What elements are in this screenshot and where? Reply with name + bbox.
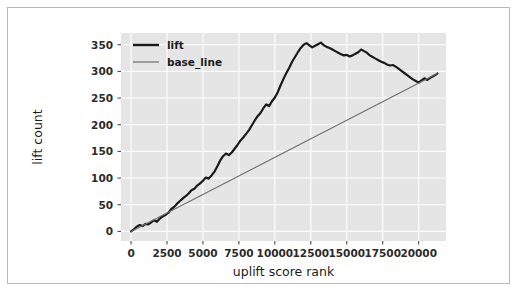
- x-tick-label-0: 0: [127, 247, 134, 259]
- x-tick-label-5: 12500: [293, 247, 330, 259]
- y-tick-label-0: 0: [106, 225, 113, 237]
- uplift-lift-chart: 02500500075001000012500150001750020000 0…: [8, 8, 509, 283]
- legend-label-base_line: base_line: [167, 56, 222, 69]
- y-tick-label-7: 350: [91, 39, 113, 51]
- y-tick-label-2: 100: [91, 172, 113, 184]
- x-tick-label-3: 7500: [224, 247, 253, 259]
- x-tick-label-6: 15000: [329, 247, 366, 259]
- chart-card: 02500500075001000012500150001750020000 0…: [7, 7, 510, 284]
- x-tick-label-8: 20000: [400, 247, 437, 259]
- x-tick-label-4: 10000: [257, 247, 294, 259]
- x-tick-label-1: 2500: [152, 247, 181, 259]
- y-tick-label-4: 200: [91, 119, 113, 131]
- x-tick-label-7: 17500: [364, 247, 401, 259]
- y-tick-label-5: 250: [91, 92, 113, 104]
- y-tick-label-1: 50: [98, 199, 113, 211]
- y-axis-title: lift count: [30, 109, 45, 164]
- x-tick-label-2: 5000: [188, 247, 217, 259]
- y-tick-label-6: 300: [91, 65, 113, 77]
- x-axis-title: uplift score rank: [233, 264, 335, 279]
- y-tick-label-3: 150: [91, 145, 113, 157]
- page-footer-ghost-text: [10, 288, 210, 296]
- legend-label-lift: lift: [167, 39, 184, 51]
